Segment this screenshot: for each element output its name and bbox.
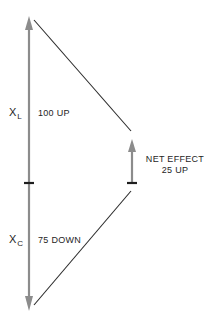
xc-symbol-subscript: C — [17, 239, 23, 248]
lower-projection-line — [34, 191, 131, 305]
xl-arrow — [25, 16, 33, 183]
net-effect-arrow — [127, 139, 137, 183]
xc-symbol: XC — [9, 234, 23, 248]
xc-arrowhead-icon — [25, 296, 33, 311]
xl-arrowhead-icon — [25, 16, 33, 30]
net-effect-value: 25 UP — [140, 165, 210, 176]
xl-symbol-letter: X — [9, 106, 16, 118]
xl-symbol-subscript: L — [17, 112, 21, 121]
xc-arrow — [25, 183, 33, 311]
net-effect-title: NET EFFECT — [140, 154, 210, 165]
xl-value-label: 100 UP — [38, 109, 70, 118]
net-effect-label: NET EFFECT 25 UP — [140, 154, 210, 176]
xc-value-label: 75 DOWN — [38, 236, 81, 245]
xc-symbol-letter: X — [9, 233, 16, 245]
xl-symbol: XL — [9, 107, 22, 121]
net-arrowhead-icon — [128, 139, 136, 152]
